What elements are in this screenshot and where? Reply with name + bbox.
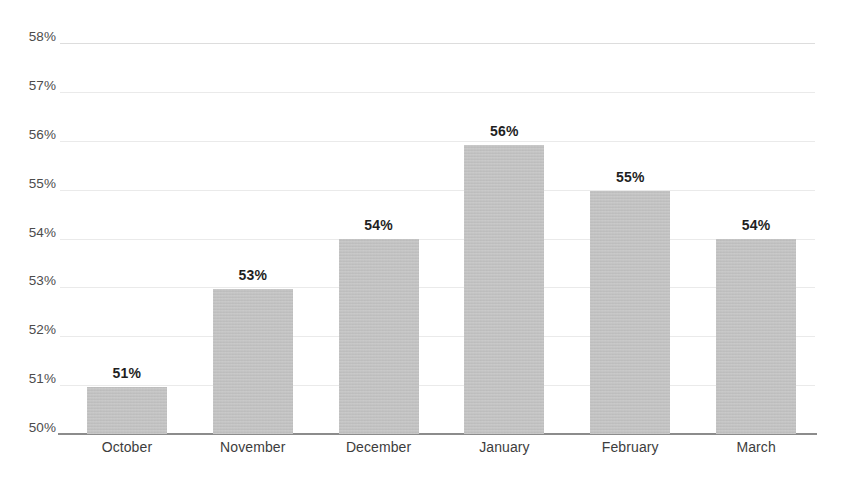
x-axis-tick-label: January — [442, 440, 566, 454]
y-axis-tick-label: 50% — [22, 421, 56, 435]
y-axis-tick-label: 57% — [22, 79, 56, 93]
x-axis-tick-label: February — [568, 440, 692, 454]
x-axis-tick-label: March — [694, 440, 818, 454]
bar-value-label: 51% — [87, 366, 167, 380]
bar[interactable] — [464, 145, 544, 434]
gridline-56 — [60, 141, 815, 142]
gridline-52 — [60, 336, 815, 337]
y-axis-tick-label: 55% — [22, 177, 56, 191]
gridline-55 — [60, 190, 815, 191]
bar-value-label: 54% — [716, 218, 796, 232]
y-axis-tick-label: 54% — [22, 226, 56, 240]
plot-area — [60, 43, 815, 434]
bar-value-label: 56% — [464, 124, 544, 138]
gridline-58 — [60, 43, 815, 44]
bar[interactable] — [87, 387, 167, 434]
bar[interactable] — [339, 239, 419, 434]
gridline-53 — [60, 287, 815, 288]
y-axis-tick-label: 51% — [22, 372, 56, 386]
bar[interactable] — [213, 289, 293, 434]
x-axis-line — [58, 433, 817, 435]
x-axis-tick-label: December — [317, 440, 441, 454]
bar[interactable] — [590, 191, 670, 434]
gridline-51 — [60, 385, 815, 386]
x-axis-tick-label: October — [65, 440, 189, 454]
x-axis-tick-label: November — [191, 440, 315, 454]
bar-chart: 58%57%56%55%54%53%52%51%50% 51%53%54%56%… — [0, 0, 843, 481]
gridline-54 — [60, 239, 815, 240]
y-axis-tick-label: 56% — [22, 128, 56, 142]
y-axis-tick-label: 58% — [22, 30, 56, 44]
bar-value-label: 53% — [213, 268, 293, 282]
bar-value-label: 55% — [590, 170, 670, 184]
bar[interactable] — [716, 239, 796, 434]
y-axis-tick-label: 52% — [22, 323, 56, 337]
gridline-57 — [60, 92, 815, 93]
bar-value-label: 54% — [339, 218, 419, 232]
y-axis-tick-label: 53% — [22, 274, 56, 288]
